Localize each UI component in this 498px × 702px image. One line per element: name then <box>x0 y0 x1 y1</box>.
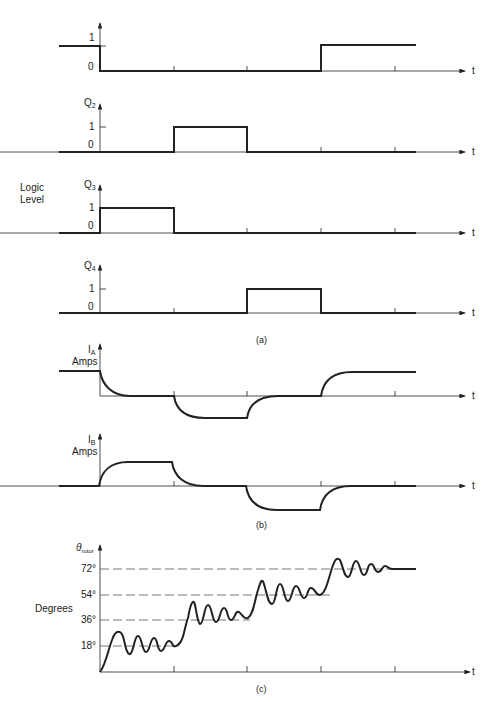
q2-waveform <box>59 127 416 152</box>
q3-axis-label: Q3 <box>84 180 96 191</box>
ia-label-sub: A <box>91 349 96 356</box>
q4-axis-label: Q4 <box>84 261 96 272</box>
q4-waveform <box>59 289 416 313</box>
logic-label-line2: Level <box>14 195 50 205</box>
caption-c: (c) <box>256 684 267 694</box>
logic-label-line1: Logic <box>14 183 50 193</box>
q3-plot <box>0 185 465 233</box>
time-label: t <box>472 391 475 401</box>
q3-low-label: 0 <box>88 221 94 231</box>
ib-axis-label: IB <box>88 435 95 446</box>
caption-a: (a) <box>256 335 267 345</box>
ia-unit-label: Amps <box>72 357 98 367</box>
rotor-subscript: rotor <box>81 548 93 554</box>
q3-waveform <box>59 208 416 233</box>
ia-waveform <box>59 371 416 418</box>
time-label: t <box>472 308 475 318</box>
q1-low-label: 0 <box>88 62 94 72</box>
tick-18: 18° <box>60 641 96 651</box>
logic-level-label: Logic Level <box>14 183 50 205</box>
q2-high-label: 1 <box>89 122 95 132</box>
q1-waveform <box>59 45 416 71</box>
q4-plot <box>59 265 465 313</box>
q2-plot <box>0 104 465 152</box>
q2-label-main: Q <box>84 97 92 108</box>
tick-36: 36° <box>60 615 96 625</box>
rotor-axis-label: θrotor <box>76 543 94 554</box>
q4-label-sub: 4 <box>92 265 96 272</box>
time-label: t <box>472 481 475 491</box>
tick-54: 54° <box>60 590 96 600</box>
q3-label-main: Q <box>84 179 92 190</box>
ib-label-sub: B <box>91 439 96 446</box>
caption-b: (b) <box>256 520 267 530</box>
ia-plot <box>59 344 465 418</box>
q3-high-label: 1 <box>89 203 95 213</box>
q4-high-label: 1 <box>89 284 95 294</box>
rotor-plot <box>100 545 470 672</box>
q3-label-sub: 3 <box>92 184 96 191</box>
tick-72: 72° <box>60 564 96 574</box>
q4-low-label: 0 <box>88 302 94 312</box>
rotor-angle-waveform <box>100 559 416 672</box>
time-label: t <box>472 66 475 76</box>
q1-high-label: 1 <box>89 33 95 43</box>
q2-label-sub: 2 <box>92 102 96 109</box>
ib-plot <box>0 434 465 510</box>
degrees-label: Degrees <box>35 604 73 614</box>
time-label: t <box>472 228 475 238</box>
time-label: t <box>472 667 475 677</box>
q2-low-label: 0 <box>88 140 94 150</box>
q4-label-main: Q <box>84 260 92 271</box>
time-label: t <box>472 147 475 157</box>
q2-axis-label: Q2 <box>84 98 96 109</box>
ia-axis-label: IA <box>88 345 95 356</box>
reference-lines <box>100 569 416 646</box>
q1-plot <box>59 23 465 71</box>
ib-unit-label: Amps <box>72 447 98 457</box>
